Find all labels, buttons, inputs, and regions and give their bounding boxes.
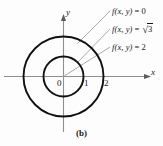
- contour-plot-canvas: [0, 0, 163, 146]
- contour-level-value: 2: [141, 42, 145, 52]
- figure-caption: (b): [0, 128, 163, 138]
- contour-function-name: f(x, y): [112, 42, 133, 52]
- x-axis-label: x: [151, 68, 155, 77]
- contour-function-name: f(x, y): [112, 24, 133, 34]
- x-tick-label-2: 2: [104, 79, 109, 88]
- contour-level-value: 3: [147, 23, 153, 34]
- contour-annotation-inner: f(x, y)=√3: [112, 25, 153, 35]
- contour-equals-sign: =: [133, 24, 142, 34]
- leader-line-outer-circle: [78, 11, 111, 44]
- x-tick-label-0: 0: [57, 79, 62, 88]
- x-axis-arrowhead: [144, 74, 151, 79]
- contour-map-figure: y x 0 1 2 f(x, y)=0 f(x, y)=√3 f(x, y)=2…: [0, 0, 163, 146]
- contour-annotation-origin: f(x, y)=2: [112, 43, 146, 52]
- contour-annotation-outer: f(x, y)=0: [112, 7, 146, 16]
- x-tick-label-1: 1: [84, 79, 89, 88]
- contour-function-name: f(x, y): [112, 6, 133, 16]
- y-axis-label: y: [66, 8, 70, 17]
- contour-level-value: 0: [141, 6, 145, 16]
- square-root-icon: √3: [141, 25, 153, 35]
